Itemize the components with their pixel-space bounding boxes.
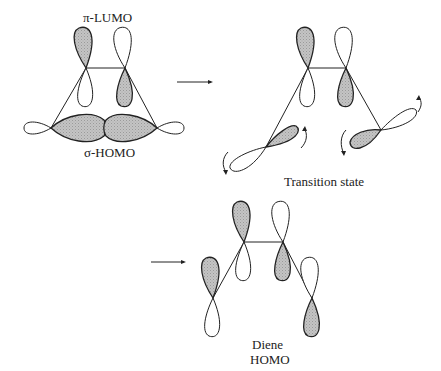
diene-c3-top (272, 201, 290, 242)
sigma-lobe-right-shaded (104, 114, 157, 141)
ts-pi-right-top (335, 27, 353, 68)
pi-lobe-right-bottom-shaded (117, 68, 133, 107)
arrow-head-icon (181, 260, 186, 264)
pi-lumo-label: π-LUMO (83, 10, 132, 25)
arrow-reactants-to-ts (177, 80, 213, 84)
diene-c4-bottom-shaded (304, 298, 320, 337)
ts-sigma-right-shaded (350, 130, 381, 149)
rotation-arrowhead-icon (223, 170, 228, 175)
ts-sigma-right-open (381, 109, 417, 130)
pi-lobe-left-top-shaded (74, 27, 92, 68)
diene-c1-bottom (205, 298, 220, 337)
diene-c2-top-shaded (233, 201, 250, 242)
rotation-arrowhead-icon (416, 95, 421, 100)
rotation-arrow-icon (341, 130, 346, 154)
sigma-lobe-right-outer (157, 122, 184, 134)
ts-sigma-left-open (230, 147, 266, 171)
sigma-lobe-left-outer (24, 122, 51, 134)
ts-pi-right-bottom-shaded (338, 68, 354, 107)
sigma-homo-label: σ-HOMO (84, 145, 135, 160)
ts-sigma-left-shaded (266, 126, 298, 147)
pi-lobe-right-top (114, 27, 132, 68)
ts-pi-left-bottom (300, 68, 315, 107)
arrow-to-diene (151, 260, 186, 264)
diene-c3-bottom-shaded (275, 242, 291, 281)
arrow-head-icon (208, 80, 213, 84)
diene-homo-panel: Diene HOMO (202, 201, 320, 367)
diene-c2-bottom (236, 242, 251, 281)
pi-lobe-left-bottom (78, 68, 93, 107)
diene-label: Diene (252, 337, 283, 352)
rotation-arrow-icon (223, 152, 228, 172)
reactants-panel: π-LUMO σ-HOMO (24, 10, 184, 160)
orbital-diagram-svg: π-LUMO σ-HOMO (0, 0, 441, 371)
diene-c4-top (301, 257, 319, 298)
ts-pi-left-top-shaded (297, 27, 314, 68)
rotation-arrowhead-icon (341, 151, 346, 156)
rotation-arrowhead-icon (302, 126, 307, 131)
orbital-diagram: π-LUMO σ-HOMO (0, 0, 441, 371)
transition-state-label: Transition state (284, 174, 364, 189)
sigma-lobe-left-shaded (51, 114, 106, 141)
transition-state-panel: Transition state (223, 27, 421, 189)
homo-label: HOMO (250, 352, 290, 367)
